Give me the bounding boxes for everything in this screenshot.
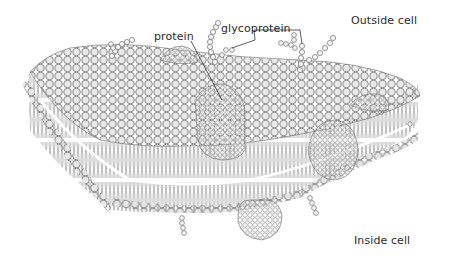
peripheral-protein-bottom bbox=[238, 200, 282, 240]
integral-protein-center bbox=[195, 84, 245, 160]
label-inside-cell: Inside cell bbox=[354, 234, 410, 247]
membrane-illustration bbox=[0, 0, 463, 264]
label-protein: protein bbox=[154, 30, 194, 43]
label-glycoprotein: glycoprotein bbox=[221, 22, 291, 35]
glycoprotein-leader-line-left bbox=[232, 40, 255, 48]
label-outside-cell: Outside cell bbox=[351, 14, 417, 27]
membrane-diagram: protein glycoprotein Outside cell Inside… bbox=[0, 0, 463, 264]
